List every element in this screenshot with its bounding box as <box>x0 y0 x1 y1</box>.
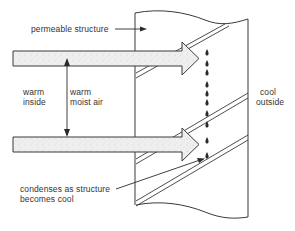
droplet-icon <box>205 60 208 67</box>
label-cool-outside-line2: outside <box>256 97 284 107</box>
droplet-icon <box>205 69 208 76</box>
airflow-arrow-lower <box>13 128 199 161</box>
condensation-droplets <box>205 49 208 159</box>
wall-top-edge <box>135 11 248 24</box>
droplet-icon <box>205 90 208 97</box>
droplet-icon <box>205 99 208 106</box>
label-condenses: condenses as structure becomes cool <box>20 184 110 204</box>
condensation-diagram: permeable structure warm inside warm moi… <box>0 0 295 231</box>
label-cool-outside-line1: cool <box>256 87 284 97</box>
label-condenses-line1: condenses as structure <box>20 184 110 194</box>
label-cool-outside: cool outside <box>256 87 284 107</box>
droplet-icon <box>205 110 208 117</box>
label-condenses-line2: becomes cool <box>20 194 110 204</box>
label-warm-moist-air: warm moist air <box>70 87 103 107</box>
wall-bottom-edge <box>136 203 248 218</box>
layer-line-mid-b <box>136 98 248 164</box>
arrowhead-down-icon <box>64 129 70 137</box>
pointer-arrowhead-icon <box>140 27 147 32</box>
label-warm-inside-line2: inside <box>23 97 46 107</box>
label-warm-inside: warm inside <box>23 87 46 107</box>
wall-structure <box>135 11 248 218</box>
airflow-arrow-upper <box>13 42 199 75</box>
label-warm-moist-air-line1: warm <box>70 87 103 97</box>
pointer-permeable-structure <box>115 27 147 32</box>
droplet-icon <box>205 49 208 56</box>
droplet-icon <box>205 81 208 88</box>
droplet-icon <box>205 152 208 159</box>
label-warm-moist-air-line2: moist air <box>70 97 103 107</box>
label-permeable-structure: permeable structure <box>31 24 109 34</box>
label-warm-inside-line1: warm <box>23 87 46 97</box>
droplet-icon <box>205 137 208 144</box>
